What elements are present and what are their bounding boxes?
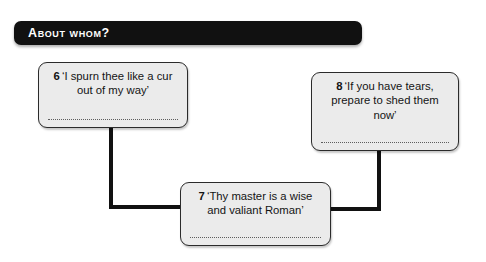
quote-body-7: ‘Thy master is a wise and valiant Roman’ — [207, 190, 312, 216]
quote-body-6: ‘I spurn thee like a cur out of my way’ — [62, 70, 173, 96]
answer-line-6[interactable] — [48, 119, 178, 120]
answer-line-7[interactable] — [190, 237, 321, 238]
quote-text-7: 7‘Thy master is a wise and valiant Roman… — [190, 189, 321, 218]
quote-box-6[interactable]: 6‘I spurn thee like a cur out of my way’ — [38, 62, 188, 128]
quote-number-6: 6 — [54, 70, 60, 82]
quote-text-8: 8‘If you have tears, prepare to shed the… — [321, 79, 449, 122]
quote-number-8: 8 — [336, 80, 342, 92]
connector-box6-horizontal — [109, 205, 184, 209]
quote-box-8[interactable]: 8‘If you have tears, prepare to shed the… — [311, 72, 459, 151]
quote-body-8: ‘If you have tears, prepare to shed them… — [331, 80, 438, 121]
worksheet-page: About whom? 6‘I spurn thee like a cur ou… — [0, 0, 486, 262]
connector-box8-horizontal — [327, 207, 381, 211]
quote-number-7: 7 — [199, 190, 205, 202]
answer-line-8[interactable] — [321, 142, 449, 143]
connector-box6-vertical — [109, 127, 113, 209]
connector-box8-vertical — [377, 150, 381, 211]
page-title: About whom? — [28, 27, 110, 40]
quote-box-7[interactable]: 7‘Thy master is a wise and valiant Roman… — [180, 182, 331, 246]
section-header-banner: About whom? — [14, 21, 362, 45]
quote-text-6: 6‘I spurn thee like a cur out of my way’ — [48, 69, 178, 98]
